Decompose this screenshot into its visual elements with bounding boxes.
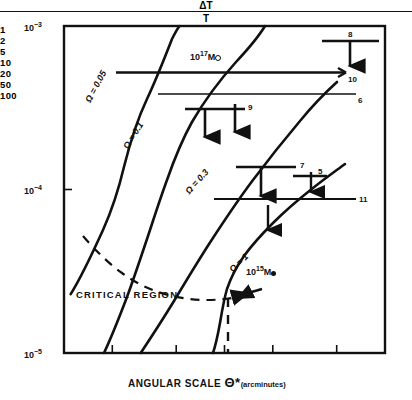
x-axis-title-main: ANGULAR SCALE — [128, 378, 221, 389]
upper-limit-label-9: 9 — [248, 104, 252, 112]
y-tick-label-1e-4: 10−4 — [24, 184, 42, 196]
mass-mantissa-1e15: 10 — [246, 267, 256, 277]
critical-boundary-arrowhead — [234, 289, 262, 297]
critical-region-label: CRITICAL REGION — [76, 290, 178, 300]
chart-figure: 10−3 10−4 10−5 ΔT T 1 2 5 10 20 50 100 A… — [0, 0, 412, 400]
x-axis-title: ANGULAR SCALE Θ*(arcminutes) — [128, 376, 286, 389]
upper-limit-label-7: 7 — [300, 162, 304, 170]
mass-label-1e17: 1017M — [190, 50, 221, 62]
sun-open-icon — [215, 55, 221, 61]
y-tick-label-1e-3: 10−3 — [24, 21, 42, 33]
curve-omega-1 — [213, 164, 345, 353]
curve-omega-0.3 — [141, 82, 337, 353]
mass-symbol-1e15: M — [264, 267, 272, 277]
upper-limit-8 — [322, 41, 379, 66]
mass-exponent-1e15: 15 — [256, 265, 264, 272]
sun-filled-icon — [271, 271, 276, 276]
mass-exponent-1e17: 17 — [200, 50, 208, 57]
curve-omega-0.05 — [71, 26, 180, 294]
x-axis-ticks — [64, 345, 385, 353]
mass-symbol-1e17: M — [208, 52, 216, 62]
mass-label-1e15: 1015M — [246, 265, 276, 277]
upper-limit-label-8: 8 — [348, 31, 352, 39]
upper-limit-label-5: 5 — [318, 168, 322, 176]
upper-limit-label-10: 10 — [348, 76, 357, 84]
x-axis-title-theta: Θ* — [224, 375, 240, 390]
y-tick-label-1e-5: 10−5 — [24, 348, 42, 360]
x-axis-title-unit: (arcminutes) — [241, 380, 286, 389]
mass-mantissa-1e17: 10 — [190, 52, 200, 62]
upper-limit-label-6: 6 — [358, 97, 362, 105]
upper-limit-label-11: 11 — [359, 196, 367, 204]
